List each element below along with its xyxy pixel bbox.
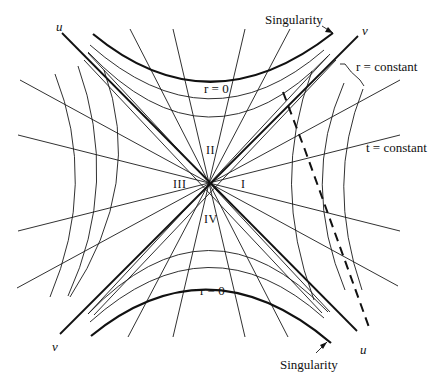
region-I-label: I bbox=[241, 178, 246, 190]
singularity-top-label: Singularity bbox=[265, 13, 323, 26]
infalling-worldline bbox=[283, 92, 370, 330]
v-axis-label-top: v bbox=[362, 24, 368, 37]
kruskal-diagram bbox=[0, 0, 440, 383]
r-constant-label: r = constant bbox=[356, 60, 417, 73]
v-axis-label-bottom: v bbox=[52, 340, 58, 353]
r-zero-bottom-label: r = 0 bbox=[200, 284, 225, 297]
singularity-bottom-label: Singularity bbox=[280, 358, 338, 371]
region-III-label: III bbox=[173, 178, 187, 190]
region-II-label: II bbox=[206, 144, 215, 156]
r-constant-region-I bbox=[291, 71, 363, 300]
u-axis-label-top: u bbox=[56, 20, 63, 33]
u-axis-label-bottom: u bbox=[360, 343, 367, 356]
r-zero-top-label: r = 0 bbox=[204, 82, 229, 95]
t-constant-label: t = constant bbox=[366, 141, 427, 154]
r-constant-region-III bbox=[50, 66, 118, 297]
region-IV-label: IV bbox=[204, 213, 218, 225]
